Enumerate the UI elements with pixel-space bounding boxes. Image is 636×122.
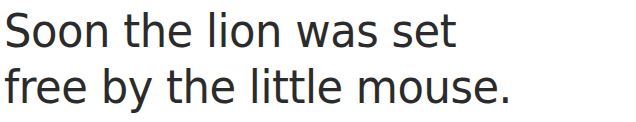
sentence-card: Soon the lion was set free by the little… — [0, 0, 636, 122]
sentence-line-2: free by the little mouse. — [4, 64, 512, 110]
sentence-line-1: Soon the lion was set — [4, 8, 456, 54]
